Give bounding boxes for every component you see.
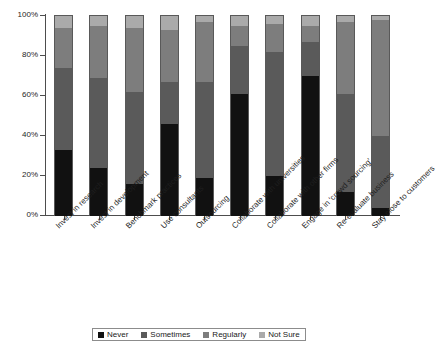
bar-segment-sometimes — [266, 52, 283, 176]
y-tick-label: 100% — [0, 11, 38, 19]
bar-segment-regularly — [90, 26, 107, 78]
y-tick-label-text: 100% — [4, 11, 38, 19]
y-tick-label: 60% — [0, 91, 38, 99]
legend-item[interactable]: Not Sure — [259, 331, 300, 339]
bar-segment-sometimes — [126, 92, 143, 184]
bar-segment-sometimes — [231, 46, 248, 94]
chart-legend: NeverSometimesRegularlyNot Sure — [92, 328, 306, 341]
bar-segment-regularly — [337, 22, 354, 94]
y-tick-label-text: 80% — [4, 51, 38, 59]
bar-segment-not-sure — [231, 16, 248, 26]
y-tick-mark — [40, 55, 45, 56]
y-tick-label: 0% — [0, 211, 38, 219]
bar-segment-regularly — [302, 26, 319, 42]
bar-segment-sometimes — [196, 82, 213, 178]
y-tick-mark — [40, 215, 45, 216]
bar-segment-not-sure — [302, 16, 319, 26]
legend-item[interactable]: Never — [98, 331, 128, 339]
legend-swatch-icon — [203, 332, 209, 338]
bar-segment-sometimes — [90, 78, 107, 168]
bar-segment-not-sure — [90, 16, 107, 26]
bar-segment-never — [55, 150, 72, 216]
bar-segment-not-sure — [126, 16, 143, 28]
y-tick-label-text: 0% — [4, 211, 38, 219]
bar-segment-sometimes — [161, 82, 178, 124]
bar-segment-regularly — [231, 26, 248, 46]
legend-swatch-icon — [141, 332, 147, 338]
bar-segment-regularly — [266, 24, 283, 52]
bar-segment-sometimes — [302, 42, 319, 76]
legend-label: Never — [107, 331, 128, 339]
bar-column[interactable] — [230, 15, 249, 215]
y-tick-label-text: 20% — [4, 171, 38, 179]
bar-column[interactable] — [54, 15, 73, 215]
bar-segment-not-sure — [55, 16, 72, 28]
bar-segment-not-sure — [161, 16, 178, 30]
legend-label: Regularly — [212, 331, 246, 339]
bar-segment-regularly — [372, 20, 389, 136]
bar-segment-never — [231, 94, 248, 216]
bar-segment-regularly — [126, 28, 143, 92]
bar-segment-never — [161, 124, 178, 216]
y-tick-label: 80% — [0, 51, 38, 59]
y-tick-label-text: 60% — [4, 91, 38, 99]
bar-segment-sometimes — [55, 68, 72, 150]
bar-segment-regularly — [55, 28, 72, 68]
bar-segment-not-sure — [266, 16, 283, 24]
y-tick-mark — [40, 135, 45, 136]
bar-segment-regularly — [196, 22, 213, 82]
legend-label: Not Sure — [268, 331, 300, 339]
y-tick-mark — [40, 95, 45, 96]
legend-swatch-icon — [98, 332, 104, 338]
legend-label: Sometimes — [150, 331, 190, 339]
y-tick-label: 40% — [0, 131, 38, 139]
y-tick-label: 20% — [0, 171, 38, 179]
y-tick-mark — [40, 175, 45, 176]
y-tick-mark — [40, 15, 45, 16]
bar-segment-regularly — [161, 30, 178, 82]
legend-item[interactable]: Sometimes — [141, 331, 190, 339]
y-tick-label-text: 40% — [4, 131, 38, 139]
legend-swatch-icon — [259, 332, 265, 338]
legend-item[interactable]: Regularly — [203, 331, 246, 339]
